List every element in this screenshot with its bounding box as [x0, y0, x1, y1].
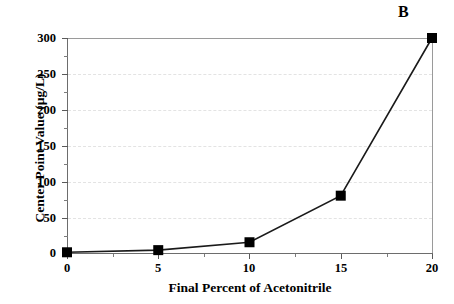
y-tick-200	[62, 110, 68, 111]
y-tick-150	[62, 146, 68, 147]
gridline-y-150	[68, 146, 432, 148]
x-tick-label-10: 10	[229, 262, 269, 275]
x-tick-label-0: 0	[47, 262, 87, 275]
gridline-y-250	[68, 74, 432, 76]
y-minor-tick-75	[64, 200, 68, 201]
plot-right-spine	[432, 38, 433, 254]
x-tick-10	[249, 254, 250, 259]
x-tick-0	[67, 254, 68, 259]
gridline-y-200	[68, 110, 432, 112]
x-minor-tick-12.5	[295, 254, 296, 257]
y-minor-tick-275	[64, 56, 68, 57]
data-point-marker	[336, 191, 346, 201]
y-minor-tick-225	[64, 92, 68, 93]
x-axis-line	[67, 253, 433, 254]
gridline-y-50	[68, 218, 432, 220]
y-minor-tick-25	[64, 236, 68, 237]
y-minor-tick-125	[64, 164, 68, 165]
chart-figure: B 300 250 200 150 100 50 0 0 5 10 15 20 …	[0, 0, 454, 304]
y-tick-250	[62, 74, 68, 75]
y-tick-100	[62, 182, 68, 183]
panel-label: B	[398, 3, 409, 21]
x-minor-tick-2.5	[113, 254, 114, 257]
data-series-layer	[0, 0, 454, 304]
x-tick-20	[432, 254, 433, 259]
x-tick-15	[341, 254, 342, 259]
x-minor-tick-17.5	[387, 254, 388, 257]
gridline-y-100	[68, 182, 432, 184]
x-axis-title: Final Percent of Acetonitrile	[67, 280, 433, 296]
data-point-marker	[245, 237, 255, 247]
y-minor-tick-175	[64, 128, 68, 129]
plot-top-spine	[67, 38, 433, 39]
x-tick-5	[158, 254, 159, 259]
x-minor-tick-7.5	[204, 254, 205, 257]
y-tick-300	[62, 38, 68, 39]
y-axis-title: Center Point Value (µg/L)	[32, 33, 48, 263]
x-tick-label-20: 20	[412, 262, 452, 275]
x-tick-label-15: 15	[321, 262, 361, 275]
y-tick-50	[62, 218, 68, 219]
x-tick-label-5: 5	[138, 262, 178, 275]
